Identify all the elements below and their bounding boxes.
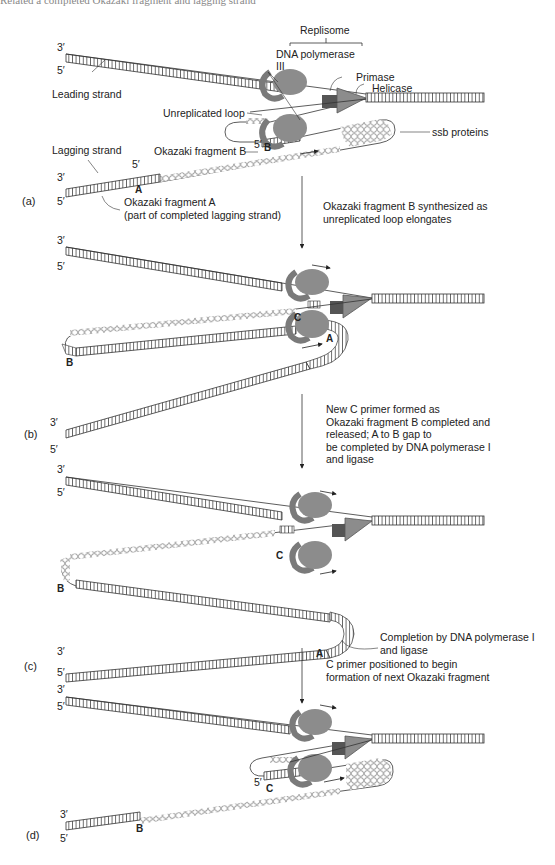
three-prime-label: 3′ <box>60 808 68 820</box>
fragment-b-marker: B <box>264 142 271 154</box>
five-prime-label: 5′ <box>57 666 65 678</box>
three-prime-label: 3′ <box>50 416 58 428</box>
fragment-a-marker: A <box>316 648 323 660</box>
dna-polymerase-label: DNA polymerase <box>276 48 355 60</box>
pol-iii-label: III <box>276 60 285 72</box>
lagging-strand-label: Lagging strand <box>52 144 121 156</box>
fragment-b-marker: B <box>66 357 73 369</box>
five-prime-label: 5′ <box>57 195 65 207</box>
fragment-a-marker: A <box>326 333 333 345</box>
fragment-b-marker: B <box>136 823 143 835</box>
panel-c-label: (c) <box>24 660 37 672</box>
three-prime-label: 3′ <box>57 234 65 246</box>
five-prime-label: 5′ <box>132 158 140 170</box>
fragment-c-marker: C <box>266 783 273 795</box>
leading-strand-label: Leading strand <box>52 88 121 100</box>
five-prime-label: 5′ <box>57 700 65 712</box>
fragment-c-marker: C <box>294 312 301 324</box>
fragment-c-marker: C <box>276 550 283 562</box>
replisome-label: Replisome <box>300 24 350 36</box>
ssb-proteins-label: ssb proteins <box>432 126 489 138</box>
okazaki-a-label: Okazaki fragment A <box>124 196 216 208</box>
okazaki-b-label: Okazaki fragment B <box>154 145 246 157</box>
panel-d-label: (d) <box>26 829 39 841</box>
three-prime-label: 3′ <box>57 41 65 53</box>
three-prime-label: 3′ <box>57 171 65 183</box>
panel-b-caption: New C primer formed as Okazaki fragment … <box>326 403 491 466</box>
panel-a-caption: Okazaki fragment B synthesized as unrepl… <box>323 200 488 225</box>
three-prime-label: 3′ <box>57 645 65 657</box>
five-prime-label: 5′ <box>57 260 65 272</box>
three-prime-label: 3′ <box>57 463 65 475</box>
three-prime-label: 3′ <box>57 683 65 695</box>
five-prime-label: 5′ <box>254 138 262 150</box>
fragment-a-marker: A <box>135 184 142 196</box>
panel-b-label: (b) <box>24 428 37 440</box>
panel-c-caption: C primer positioned to begin formation o… <box>326 658 489 683</box>
five-prime-label: 5′ <box>60 832 68 844</box>
five-prime-label: 5′ <box>57 486 65 498</box>
unreplicated-loop-label: Unreplicated loop <box>163 107 245 119</box>
five-prime-label: 5′ <box>57 64 65 76</box>
five-prime-label: 5′ <box>254 776 262 788</box>
five-prime-label: 5′ <box>50 443 58 455</box>
okazaki-a-note: (part of completed lagging strand) <box>124 209 281 221</box>
panel-d <box>66 697 484 830</box>
fragment-b-marker: B <box>57 583 64 595</box>
panel-a-label: (a) <box>22 195 35 207</box>
helicase-label: Helicase <box>372 82 412 94</box>
panel-c-note: Completion by DNA polymerase I and ligas… <box>380 631 535 656</box>
